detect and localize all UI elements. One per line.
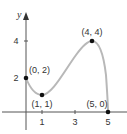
function-graph: y 1 3 5 2 4 (0, 2) (1, 1) (4, 4) (5, 0) [0,0,127,134]
x-tick-label-1: 1 [39,117,44,127]
annotation-5-0: (5, 0) [86,99,107,109]
point-0-2 [24,76,29,81]
y-tick-label-4: 4 [13,36,18,46]
y-axis-label: y [16,9,22,20]
y-tick-label-2: 2 [13,73,18,83]
x-tick-label-3: 3 [72,117,77,127]
point-1-1 [40,93,45,98]
point-5-0 [106,110,111,115]
annotation-4-4: (4, 4) [81,27,102,37]
x-tick-label-5: 5 [105,117,110,127]
point-4-4 [90,39,95,44]
y-axis-arrow-icon [23,12,29,20]
annotation-0-2: (0, 2) [29,65,50,75]
annotation-1-1: (1, 1) [31,99,52,109]
